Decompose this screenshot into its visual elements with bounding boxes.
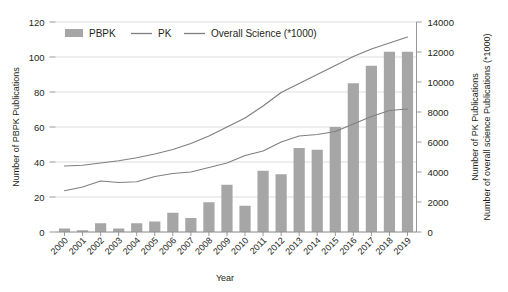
left-axis-tick-label: 80 (34, 87, 45, 98)
right-axis-tick-label: 6000 (428, 137, 449, 148)
bar (402, 52, 413, 232)
bar (185, 218, 196, 232)
bar (221, 185, 232, 232)
right-axis-tick-label: 0 (428, 227, 433, 238)
left-axis-tick-label: 100 (29, 52, 45, 63)
bar (131, 223, 142, 232)
bar (348, 83, 359, 232)
bar (149, 222, 160, 233)
right-axis-title-overall-science: Number of overall science Publications (… (482, 33, 492, 220)
bar (294, 148, 305, 232)
right-axis-title-pk: Number of PK Publications (470, 73, 480, 181)
left-axis-tick-label: 60 (34, 122, 45, 133)
right-axis-tick-label: 10000 (428, 77, 454, 88)
right-axis-tick-label: 2000 (428, 197, 449, 208)
bar (276, 174, 287, 232)
right-axis-tick-label: 14000 (428, 17, 454, 28)
legend-swatch-pbpk (65, 29, 83, 37)
left-axis-title: Number of PBPK Publications (11, 67, 21, 187)
bar (167, 213, 178, 232)
chart-figure: 020406080100120 020004000600080001000012… (0, 0, 508, 292)
bar (113, 229, 124, 233)
bar (384, 52, 395, 232)
pbpk-publications-chart: 020406080100120 020004000600080001000012… (0, 0, 508, 292)
bar (95, 223, 106, 232)
right-axis-tick-label: 12000 (428, 47, 454, 58)
bar (366, 66, 377, 232)
bar (312, 150, 323, 232)
bar (257, 171, 268, 232)
legend-label-pk: PK (158, 28, 172, 39)
legend-label-overall-science: Overall Science (*1000) (211, 28, 317, 39)
legend-label-pbpk: PBPK (89, 28, 116, 39)
bar (330, 127, 341, 232)
left-axis-tick-label: 120 (29, 17, 45, 28)
right-axis-tick-label: 4000 (428, 167, 449, 178)
left-axis-tick-label: 40 (34, 157, 45, 168)
x-axis-title: Year (216, 273, 234, 283)
left-axis-tick-label: 0 (39, 227, 44, 238)
bar (239, 206, 250, 232)
bar (203, 202, 214, 232)
right-axis-tick-label: 8000 (428, 107, 449, 118)
bar (59, 229, 70, 233)
left-axis-tick-label: 20 (34, 192, 45, 203)
